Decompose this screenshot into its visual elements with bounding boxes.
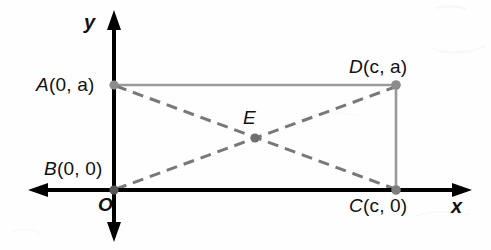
point-D-dot bbox=[391, 80, 401, 90]
y-axis-label: y bbox=[84, 12, 95, 32]
point-label-C-letter: C bbox=[349, 195, 363, 216]
y-axis-top-arrowhead bbox=[107, 10, 121, 30]
point-label-D: D(c, a) bbox=[349, 57, 407, 76]
point-A-dot bbox=[109, 80, 118, 89]
origin-label: O bbox=[98, 195, 113, 214]
point-label-D-coords: (c, a) bbox=[363, 56, 407, 77]
point-E-dot bbox=[250, 133, 259, 142]
point-label-B: B(0, 0) bbox=[44, 159, 102, 178]
x-axis-label: x bbox=[451, 196, 462, 216]
point-label-B-coords: (0, 0) bbox=[57, 158, 103, 179]
vertex-dots bbox=[109, 80, 400, 195]
point-label-C: C(c, 0) bbox=[349, 196, 407, 215]
point-label-E: E bbox=[243, 108, 256, 127]
point-label-C-coords: (c, 0) bbox=[363, 195, 407, 216]
point-label-A: A(0, a) bbox=[36, 75, 94, 94]
x-axis-left-arrowhead bbox=[28, 183, 48, 197]
diagram-canvas: A(0, a) B(0, 0) C(c, 0) D(c, a) E y x O bbox=[0, 0, 491, 250]
point-label-A-coords: (0, a) bbox=[49, 74, 95, 95]
point-C-dot bbox=[391, 185, 401, 195]
point-label-B-letter: B bbox=[44, 158, 57, 179]
point-label-A-letter: A bbox=[36, 74, 49, 95]
point-label-D-letter: D bbox=[349, 56, 363, 77]
y-axis-bottom-arrowhead bbox=[107, 222, 121, 242]
